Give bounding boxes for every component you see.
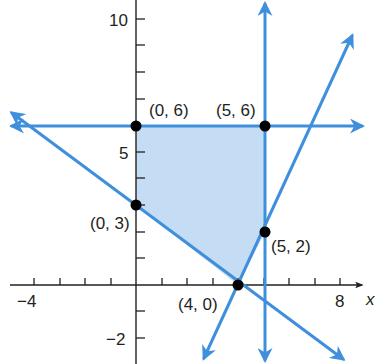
point-5-6 xyxy=(260,121,271,132)
y-ticks xyxy=(136,19,145,338)
label-point-0-3: (0, 3) xyxy=(90,214,130,233)
x-ticks xyxy=(34,278,340,285)
label-point-5-6: (5, 6) xyxy=(216,101,256,120)
label-point-0-6: (0, 6) xyxy=(149,101,189,120)
coordinate-plane: (0, 6) (5, 6) (0, 3) (5, 2) (4, 0) 10 5 … xyxy=(0,0,380,364)
point-5-2 xyxy=(260,227,271,238)
x-tick-label-neg4: −4 xyxy=(17,292,36,311)
x-tick-label-8: 8 xyxy=(335,292,344,311)
point-0-3 xyxy=(131,200,142,211)
x-axis-label: x xyxy=(365,290,375,309)
point-4-0 xyxy=(233,280,244,291)
y-tick-label-neg2: −2 xyxy=(106,330,125,349)
feasible-region xyxy=(136,126,265,285)
point-0-6 xyxy=(131,121,142,132)
label-point-5-2: (5, 2) xyxy=(271,237,311,256)
label-point-4-0: (4, 0) xyxy=(178,295,218,314)
y-tick-label-5: 5 xyxy=(119,144,128,163)
y-tick-label-10: 10 xyxy=(109,11,128,30)
